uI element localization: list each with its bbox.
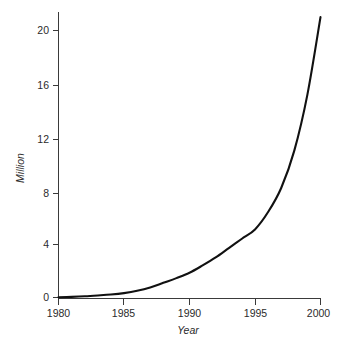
x-tick-label-1985: 1985 <box>112 307 136 319</box>
y-tick-label-12: 12 <box>37 133 49 145</box>
x-axis-title: Year <box>177 324 199 336</box>
y-tick-label-20: 20 <box>37 24 49 36</box>
y-tick-label-0: 0 <box>43 291 49 303</box>
y-axis-title: Million <box>14 153 26 183</box>
x-tick-label-1995: 1995 <box>244 307 268 319</box>
y-tick-label-8: 8 <box>43 187 49 199</box>
x-tick-label-2000: 2000 <box>307 307 331 319</box>
chart-plot-area: 20 16 12 8 4 0 1980 1985 1990 1995 2000 … <box>0 0 344 355</box>
x-tick-label-1990: 1990 <box>178 307 202 319</box>
y-tick-label-16: 16 <box>37 79 49 91</box>
data-series-line-million <box>59 17 321 297</box>
y-tick-label-4: 4 <box>43 238 49 250</box>
x-tick-label-1980: 1980 <box>47 307 71 319</box>
chart-container: 20 16 12 8 4 0 1980 1985 1990 1995 2000 … <box>0 0 344 355</box>
